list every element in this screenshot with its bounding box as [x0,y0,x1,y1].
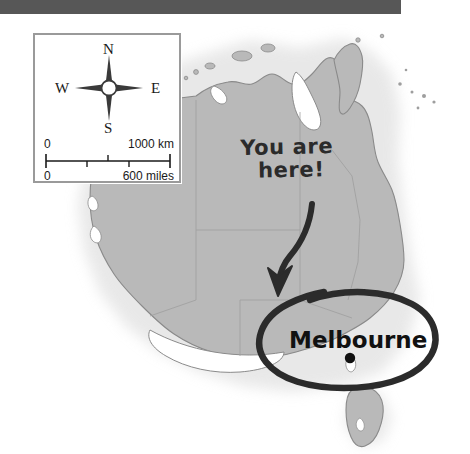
scale-miles-min-label: 0 [44,170,51,182]
melbourne-city-label: Melbourne [289,329,427,352]
compass-east-label: E [151,81,160,96]
callout-line-2: here! [240,158,342,183]
compass-south-label: S [104,121,112,136]
you-are-here-callout: You are here! [232,135,343,183]
map-screenshot: N S W E 0 1000 km 0 600 mil [0,0,470,454]
map-legend-box: N S W E 0 1000 km 0 600 mil [33,33,181,183]
compass-rose: N S W E [35,37,183,137]
compass-west-label: W [55,81,69,96]
scale-miles-max-label: 600 miles [123,170,174,182]
eastern-islets [398,69,435,110]
map-scale-bar: 0 1000 km 0 600 miles [44,138,174,182]
melbourne-city-dot [345,353,355,363]
callout-line-1: You are [240,134,333,160]
scale-km-min-label: 0 [44,138,51,150]
compass-north-label: N [103,42,114,57]
scale-km-max-label: 1000 km [128,138,174,150]
scale-bar-graphic [44,153,174,169]
